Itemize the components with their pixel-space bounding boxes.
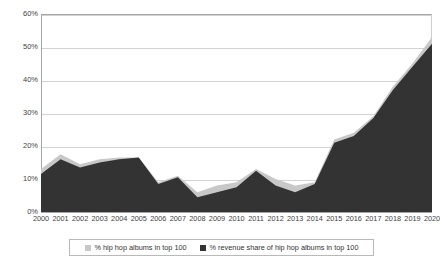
x-axis-label-2005: 2005: [131, 214, 147, 224]
x-axis-line: [41, 212, 432, 213]
y-axis-label-40: 40%: [2, 76, 38, 84]
x-axis-label-2009: 2009: [209, 214, 225, 224]
x-axis-label-2018: 2018: [385, 214, 401, 224]
x-axis-label-2010: 2010: [228, 214, 244, 224]
x-axis-label-2013: 2013: [287, 214, 303, 224]
legend-swatch-icon-1: [200, 245, 206, 251]
legend-label-0: % hip hop albums in top 100: [95, 243, 187, 252]
x-axis-label-2011: 2011: [248, 214, 264, 224]
x-axis-label-2014: 2014: [307, 214, 323, 224]
y-axis-label-30: 30%: [2, 109, 38, 117]
x-axis-label-2004: 2004: [111, 214, 127, 224]
x-axis-label-2001: 2001: [52, 214, 68, 224]
legend-entry-0: % hip hop albums in top 100: [85, 243, 187, 252]
x-axis-label-2003: 2003: [92, 214, 108, 224]
x-axis-label-2015: 2015: [326, 214, 342, 224]
x-axis-label-2006: 2006: [150, 214, 166, 224]
y-axis-label-20: 20%: [2, 142, 38, 150]
x-axis-label-2016: 2016: [346, 214, 362, 224]
x-axis-label-2012: 2012: [267, 214, 283, 224]
legend-swatch-icon-0: [85, 245, 91, 251]
area-series-group: [41, 14, 432, 212]
legend-entry-1: % revenue share of hip hop albums in top…: [200, 243, 359, 252]
x-axis-label-2019: 2019: [404, 214, 420, 224]
y-axis-label-50: 50%: [2, 43, 38, 51]
legend-label-1: % revenue share of hip hop albums in top…: [210, 243, 359, 252]
x-axis-label-2008: 2008: [189, 214, 205, 224]
chart-legend: % hip hop albums in top 100% revenue sha…: [69, 239, 374, 256]
x-axis-label-2020: 2020: [424, 214, 440, 224]
x-axis-label-2007: 2007: [170, 214, 186, 224]
y-axis-label-10: 10%: [2, 175, 38, 183]
x-axis-label-2000: 2000: [33, 214, 49, 224]
x-axis-label-2002: 2002: [72, 214, 88, 224]
x-axis-label-2017: 2017: [365, 214, 381, 224]
y-axis-label-60: 60%: [2, 10, 38, 18]
x-axis: 2000200120022003200420052006200720082009…: [0, 214, 439, 228]
